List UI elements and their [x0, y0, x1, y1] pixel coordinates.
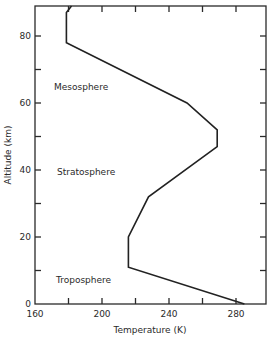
x-tick-label-160: 160	[26, 309, 43, 319]
x-tick-label-240: 240	[160, 309, 177, 319]
x-tick-label-200: 200	[93, 309, 110, 319]
y-tick-label-0: 0	[25, 299, 31, 309]
y-tick-label-20: 20	[20, 232, 32, 242]
temperature-profile-line	[66, 6, 244, 304]
y-axis-ticks-left	[35, 36, 41, 271]
x-tick-label-280: 280	[227, 309, 244, 319]
troposphere-label: Troposphere	[55, 275, 112, 285]
y-axis-title: Altitude (km)	[3, 125, 13, 184]
mesosphere-label: Mesosphere	[54, 82, 109, 92]
y-tick-label-40: 40	[20, 165, 32, 175]
plot-frame	[35, 6, 266, 304]
x-axis-ticks-top	[69, 6, 237, 12]
atmosphere-temperature-chart: 160 200 240 280 0 20 40 60 80 Temperatur…	[0, 0, 275, 344]
stratosphere-label: Stratosphere	[57, 167, 116, 177]
x-axis-ticks-bottom	[69, 298, 237, 304]
y-axis-ticks-right	[260, 36, 266, 271]
x-axis-title: Temperature (K)	[113, 325, 187, 335]
y-tick-label-80: 80	[20, 31, 32, 41]
y-tick-label-60: 60	[20, 98, 32, 108]
